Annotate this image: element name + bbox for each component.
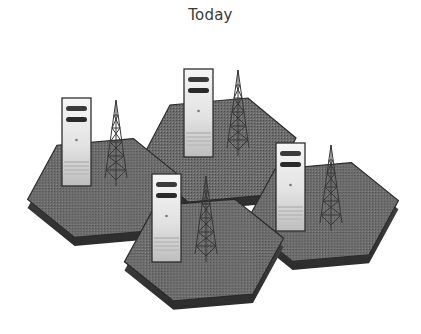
server-icon: [184, 69, 213, 157]
server-icon: [276, 143, 305, 231]
server-icon: [152, 174, 181, 262]
cellular-network-diagram: [0, 0, 421, 334]
server-icon: [62, 98, 91, 186]
